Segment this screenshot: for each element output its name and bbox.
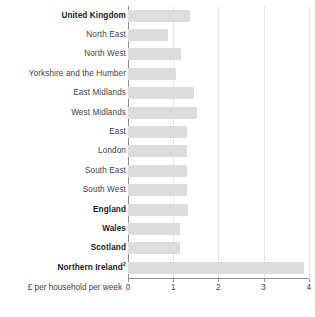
bar-row: North West (0, 45, 315, 64)
bar-track (128, 184, 309, 196)
bar-row: Yorkshire and the Humber (0, 64, 315, 83)
bar (128, 262, 304, 274)
bar (128, 107, 197, 119)
bar (128, 242, 180, 254)
tick-label-2: 2 (216, 283, 221, 293)
bar-track (128, 126, 309, 138)
category-label: North East (4, 30, 126, 40)
bar-track (128, 107, 309, 119)
category-label: East (4, 127, 126, 137)
x-axis-caption: £ per household per week (6, 283, 122, 293)
bar-row: South East (0, 161, 315, 180)
category-label: London (4, 146, 126, 156)
bar (128, 184, 187, 196)
bar (128, 10, 190, 22)
bar (128, 68, 176, 80)
tick-label-3: 3 (261, 283, 266, 293)
bar-track (128, 145, 309, 157)
bar-track (128, 48, 309, 60)
tick-mark-4 (309, 279, 310, 282)
category-label: East Midlands (4, 88, 126, 98)
bar-rows: United KingdomNorth EastNorth WestYorksh… (0, 6, 315, 277)
bar-row: Scotland (0, 239, 315, 258)
bar-track (128, 10, 309, 22)
bar-track (128, 68, 309, 80)
category-label: South West (4, 185, 126, 195)
bar-row: West Midlands (0, 103, 315, 122)
bar (128, 204, 188, 216)
bar-row: East Midlands (0, 84, 315, 103)
bar-track (128, 165, 309, 177)
bar-track (128, 29, 309, 41)
bar-row: Wales (0, 219, 315, 238)
bar (128, 29, 168, 41)
category-label: Scotland (4, 243, 126, 253)
category-label: West Midlands (4, 108, 126, 118)
tick-label-1: 1 (171, 283, 176, 293)
bar-row: England (0, 200, 315, 219)
category-label: Wales (4, 224, 126, 234)
bar-row: South West (0, 181, 315, 200)
category-label: South East (4, 166, 126, 176)
bar-chart: United KingdomNorth EastNorth WestYorksh… (0, 0, 315, 317)
bar-track (128, 87, 309, 99)
bar-row: London (0, 142, 315, 161)
bar-row: United Kingdom (0, 6, 315, 25)
bar (128, 48, 181, 60)
tick-mark-1 (173, 279, 174, 282)
bar-track (128, 204, 309, 216)
category-label: United Kingdom (4, 11, 126, 21)
bar-track (128, 242, 309, 254)
footnote-marker: 2 (123, 261, 126, 267)
bar (128, 126, 187, 138)
category-label: England (4, 205, 126, 215)
tick-label-4: 4 (307, 283, 312, 293)
bar-row: East (0, 122, 315, 141)
tick-mark-2 (218, 279, 219, 282)
bar (128, 87, 194, 99)
bar (128, 165, 187, 177)
bar-track (128, 223, 309, 235)
tick-mark-0 (128, 279, 129, 282)
bar-row: Northern Ireland2 (0, 258, 315, 277)
bar (128, 145, 187, 157)
category-label: Northern Ireland2 (4, 263, 126, 273)
bar-track (128, 262, 309, 274)
category-label: North West (4, 49, 126, 59)
bar-row: North East (0, 25, 315, 44)
tick-mark-3 (264, 279, 265, 282)
category-label: Yorkshire and the Humber (4, 69, 126, 79)
plot-area: United KingdomNorth EastNorth WestYorksh… (0, 0, 315, 317)
tick-label-0: 0 (126, 283, 131, 293)
bar (128, 223, 180, 235)
